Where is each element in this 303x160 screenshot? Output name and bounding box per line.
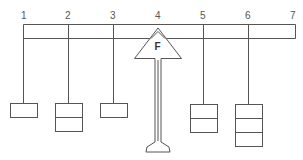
weight-box — [236, 105, 263, 119]
weights-position-6 — [236, 105, 263, 147]
fulcrum-label: F — [155, 41, 161, 52]
position-label-1: 1 — [21, 10, 27, 21]
weight-box — [236, 133, 263, 147]
weight-box — [56, 118, 83, 132]
weight-box — [191, 105, 218, 119]
position-label-7: 7 — [290, 10, 296, 21]
lever-diagram: 1 2 3 4 5 6 7 F — [0, 0, 303, 160]
position-label-4: 4 — [155, 10, 161, 21]
weight-box — [236, 119, 263, 133]
fulcrum: F — [135, 28, 182, 152]
position-label-3: 3 — [110, 10, 116, 21]
weights-position-3 — [101, 104, 128, 118]
weight-box — [56, 104, 83, 118]
weight-box — [101, 104, 128, 118]
position-label-6: 6 — [245, 10, 251, 21]
weight-box — [191, 119, 218, 133]
hangers — [24, 25, 249, 105]
weights-position-2 — [56, 104, 83, 132]
weights-position-1 — [11, 104, 38, 118]
position-label-5: 5 — [200, 10, 206, 21]
position-label-2: 2 — [65, 10, 71, 21]
weight-box — [11, 104, 38, 118]
weights-position-5 — [191, 105, 218, 133]
